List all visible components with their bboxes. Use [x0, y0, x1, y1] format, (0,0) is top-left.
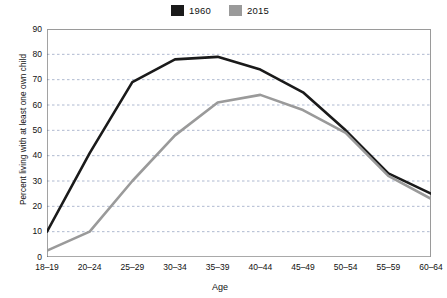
y-axis-tick-labels: 0102030405060708090 — [20, 0, 42, 298]
y-tick-label-10: 10 — [22, 227, 42, 236]
legend-label-1960: 1960 — [189, 5, 211, 16]
y-tick-label-60: 60 — [22, 101, 42, 110]
legend-label-2015: 2015 — [247, 5, 269, 16]
x-tick-label-8: 55–59 — [365, 262, 411, 272]
y-tick-label-0: 0 — [22, 253, 42, 262]
y-tick-label-40: 40 — [22, 151, 42, 160]
y-tick-label-50: 50 — [22, 126, 42, 135]
x-tick-label-3: 30–34 — [152, 262, 198, 272]
x-tick-label-7: 50–54 — [323, 262, 369, 272]
y-tick-label-90: 90 — [22, 25, 42, 34]
plot-area — [47, 29, 431, 257]
legend-swatch-2015 — [229, 5, 242, 16]
series-line-2015 — [47, 95, 431, 251]
x-tick-label-4: 35–39 — [195, 262, 241, 272]
x-tick-label-6: 45–49 — [280, 262, 326, 272]
y-tick-label-20: 20 — [22, 202, 42, 211]
x-tick-label-9: 60–64 — [408, 262, 447, 272]
data-series — [47, 57, 431, 251]
legend-entry-1960: 1960 — [171, 5, 211, 16]
y-tick-label-70: 70 — [22, 75, 42, 84]
chart-legend: 1960 2015 — [0, 2, 440, 18]
x-axis-title: Age — [0, 282, 440, 292]
x-tick-label-0: 18–19 — [24, 262, 70, 272]
legend-swatch-1960 — [171, 5, 184, 16]
x-tick-label-2: 25–29 — [109, 262, 155, 272]
plot-svg — [47, 29, 431, 257]
y-tick-label-80: 80 — [22, 50, 42, 59]
x-tick-label-5: 40–44 — [237, 262, 283, 272]
series-line-1960 — [47, 57, 431, 232]
legend-entry-2015: 2015 — [229, 5, 269, 16]
x-axis-tick-labels: 18–1920–2425–2930–3435–3940–4445–4950–54… — [47, 262, 431, 276]
x-tick-label-1: 20–24 — [67, 262, 113, 272]
y-tick-label-30: 30 — [22, 177, 42, 186]
